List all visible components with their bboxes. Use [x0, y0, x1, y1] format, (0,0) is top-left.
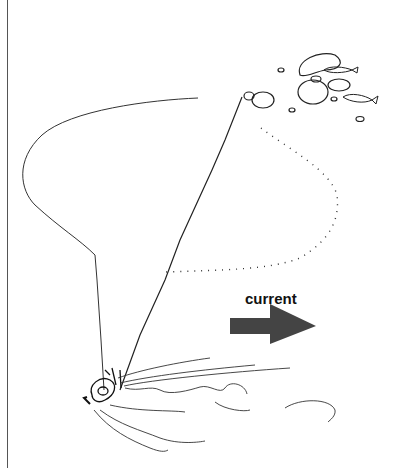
illustration [0, 0, 394, 468]
anchor-rope-line [120, 97, 242, 390]
diver-figure [84, 368, 121, 404]
current-arrow [230, 304, 316, 344]
dotted-path [165, 128, 338, 272]
rocks-cluster [244, 54, 364, 122]
fish [324, 67, 378, 104]
current-label: current [245, 290, 297, 307]
seabed-sediment-plume [94, 358, 335, 451]
drifting-rope-curve [23, 98, 198, 390]
